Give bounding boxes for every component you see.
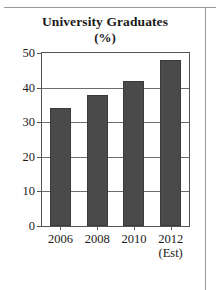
y-tick-mark-20 (37, 157, 42, 158)
y-tick-mark-30 (37, 122, 42, 123)
x-tick-label-2012: 2012(Est) (158, 232, 183, 260)
y-tick-mark-40 (37, 88, 42, 89)
page-frame: University Graduates (%) 010203040502006… (0, 0, 220, 290)
x-tick-sublabel-text: (Est) (158, 246, 183, 260)
y-tick-label-10: 10 (23, 185, 36, 198)
y-tick-label-50: 50 (23, 47, 36, 60)
y-tick-mark-0 (37, 226, 42, 227)
bar-chart-figure: University Graduates (%) 010203040502006… (0, 0, 206, 290)
x-tick-mark-2008 (97, 226, 98, 230)
x-tick-label-text: 2010 (121, 232, 146, 246)
bar-2012 (160, 60, 181, 226)
x-tick-label-text: 2006 (48, 232, 73, 246)
y-tick-mark-10 (37, 191, 42, 192)
x-tick-label-2010: 2010 (121, 232, 146, 246)
y-tick-mark-50 (37, 53, 42, 54)
x-tick-mark-2010 (134, 226, 135, 230)
x-tick-mark-2012 (171, 226, 172, 230)
bar-2008 (87, 95, 108, 226)
chart-title: University Graduates (10, 14, 200, 29)
y-tick-label-0: 0 (29, 220, 35, 233)
x-tick-label-2006: 2006 (48, 232, 73, 246)
bar-2006 (50, 108, 71, 226)
y-tick-label-20: 20 (23, 151, 36, 164)
y-tick-label-40: 40 (23, 81, 36, 94)
chart-subtitle: (%) (10, 30, 200, 45)
plot-area: 010203040502006200820102012(Est) (41, 52, 190, 227)
x-tick-label-text: 2012 (158, 232, 183, 246)
x-tick-mark-2006 (60, 226, 61, 230)
y-tick-label-30: 30 (23, 116, 36, 129)
bar-2010 (123, 81, 144, 226)
x-tick-label-2008: 2008 (85, 232, 110, 246)
x-tick-label-text: 2008 (85, 232, 110, 246)
